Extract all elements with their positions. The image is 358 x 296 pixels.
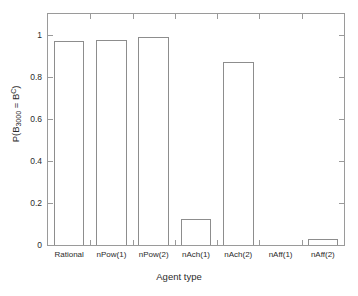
y-tick-label-0.4: 0.4 (2, 157, 42, 166)
x-tick-bottom-1 (90, 240, 91, 245)
y-axis-title-prefix: P(B (10, 127, 21, 143)
x-tick-top-1 (90, 14, 91, 19)
x-tick-bottom-4 (217, 240, 218, 245)
y-tick-right-0 (339, 245, 344, 246)
x-tick-top-6 (302, 14, 303, 19)
x-tick-bottom-5 (259, 240, 260, 245)
plot-inner-surface (48, 14, 344, 245)
y-axis-title-middle: = B (10, 94, 21, 111)
figure-canvas: 00.20.40.60.81 RationalnPow(1)nPow(2)nAc… (0, 0, 358, 296)
y-tick-right-1 (339, 35, 344, 36)
y-axis-title-subscript: 3000 (15, 111, 22, 127)
x-tick-top-2 (133, 14, 134, 19)
x-tick-top-5 (259, 14, 260, 19)
bar-naff2 (308, 239, 338, 245)
y-tick-right-0.8 (339, 77, 344, 78)
y-axis-title-suffix: ) (10, 86, 21, 89)
bar-nach1 (181, 219, 211, 245)
y-tick-0 (48, 245, 53, 246)
y-tick-label-0: 0 (2, 241, 42, 250)
bar-nach2 (223, 62, 253, 245)
y-tick-label-0.2: 0.2 (2, 199, 42, 208)
y-tick-right-0.4 (339, 161, 344, 162)
y-tick-0.4 (48, 161, 53, 162)
y-tick-label-0.8: 0.8 (2, 73, 42, 82)
y-tick-right-0.6 (339, 119, 344, 120)
y-tick-1 (48, 35, 53, 36)
y-tick-right-0.2 (339, 203, 344, 204)
y-tick-0.8 (48, 77, 53, 78)
x-tick-label-naff2: nAff(2) (293, 251, 353, 259)
x-tick-top-4 (217, 14, 218, 19)
y-tick-0.6 (48, 119, 53, 120)
x-tick-bottom-6 (302, 240, 303, 245)
bar-rational (54, 41, 84, 245)
x-tick-bottom-2 (133, 240, 134, 245)
bar-npow2 (138, 37, 168, 245)
y-tick-label-1: 1 (2, 31, 42, 40)
x-axis-title: Agent type (0, 271, 358, 282)
y-tick-0.2 (48, 203, 53, 204)
y-tick-label-0.6: 0.6 (2, 115, 42, 124)
bar-npow1 (96, 40, 126, 245)
y-axis-title-superscript: C (10, 89, 17, 94)
x-tick-top-3 (175, 14, 176, 19)
x-tick-bottom-3 (175, 240, 176, 245)
y-axis-title: P(B3000 = BC) (10, 54, 22, 174)
plot-area (47, 13, 345, 246)
